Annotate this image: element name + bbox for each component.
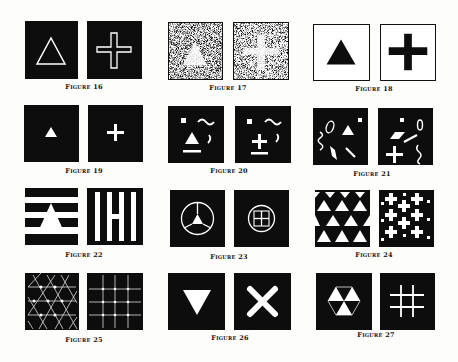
figure-21-left-triangle-scattered bbox=[313, 108, 368, 165]
triangle-tessellation-icon bbox=[315, 190, 370, 247]
triangle-with-distractors-icon bbox=[168, 106, 224, 163]
figure-26-right-diagonal-cross bbox=[234, 273, 291, 330]
figure-21-right-cross-scattered bbox=[378, 108, 433, 165]
figure-22-caption: Figure 22 bbox=[44, 251, 124, 259]
solid-cross-icon bbox=[381, 25, 435, 80]
noise-triangle-icon bbox=[169, 23, 222, 79]
figure-20-right-cross-distractors bbox=[235, 106, 291, 163]
small-cross-icon bbox=[88, 105, 143, 162]
figure-22-left-triangle-stripes bbox=[25, 188, 78, 245]
figure-19-caption: Figure 19 bbox=[44, 167, 124, 175]
figure-18-left-black-triangle bbox=[313, 24, 370, 81]
figure-22-right-cross-stripes bbox=[87, 188, 143, 245]
figure-21-caption: Figure 21 bbox=[332, 170, 412, 178]
cross-scattered-shapes-icon bbox=[378, 108, 433, 165]
figure-24-left-triangle-tessellation bbox=[315, 190, 370, 247]
triangle-scattered-shapes-icon bbox=[313, 108, 368, 165]
figure-19-right-small-cross bbox=[88, 105, 143, 162]
figure-23-left-triangle-circle bbox=[170, 190, 225, 247]
figure-16-right-outline-cross bbox=[87, 21, 142, 79]
hash-grid-icon bbox=[380, 273, 435, 330]
diagonal-cross-icon bbox=[234, 273, 291, 330]
cross-tessellation-icon bbox=[379, 190, 434, 247]
triangle-lattice-icon bbox=[25, 273, 79, 330]
solid-triangle-icon bbox=[314, 25, 369, 80]
hexagon-triangles-icon bbox=[316, 273, 372, 330]
figure-17-caption: Figure 17 bbox=[188, 84, 268, 92]
figure-23-right-cross-circle bbox=[234, 190, 289, 247]
figure-24-right-cross-tessellation bbox=[379, 190, 434, 247]
cross-with-distractors-icon bbox=[235, 106, 291, 163]
figure-18-caption: Figure 18 bbox=[334, 85, 414, 93]
cross-vertical-stripes-icon bbox=[87, 188, 143, 245]
figure-26-left-inverted-triangle bbox=[168, 273, 225, 330]
figure-27-left-hexagon-triangles bbox=[316, 273, 372, 330]
outline-triangle-icon bbox=[25, 21, 78, 79]
figure-20-caption: Figure 20 bbox=[189, 167, 269, 175]
square-grid-lattice-icon bbox=[87, 273, 143, 330]
figure-25-right-square-lattice bbox=[87, 273, 143, 330]
figure-16-caption: Figure 16 bbox=[44, 83, 124, 91]
figure-25-left-triangle-lattice bbox=[25, 273, 79, 330]
figure-18-right-black-cross bbox=[380, 24, 436, 81]
cross-in-circle-icon bbox=[234, 190, 289, 247]
figure-20-left-triangle-distractors bbox=[168, 106, 224, 163]
figure-16-left-outline-triangle bbox=[25, 21, 78, 79]
figure-17-right-noise-cross bbox=[233, 22, 289, 80]
figure-26-caption: Figure 26 bbox=[190, 334, 270, 342]
figure-19-left-small-triangle bbox=[24, 105, 79, 162]
figure-27-caption: Figure 27 bbox=[336, 331, 416, 339]
triangle-in-circle-icon bbox=[170, 190, 225, 247]
figure-24-caption: Figure 24 bbox=[334, 251, 414, 259]
small-triangle-icon bbox=[24, 105, 79, 162]
figure-17-left-noise-triangle bbox=[168, 22, 223, 80]
outline-cross-icon bbox=[87, 21, 142, 79]
inverted-triangle-icon bbox=[168, 273, 225, 330]
noise-cross-icon bbox=[234, 23, 288, 79]
figure-27-right-hash-grid bbox=[380, 273, 435, 330]
figure-25-caption: Figure 25 bbox=[44, 336, 124, 344]
figure-23-caption: Figure 23 bbox=[189, 253, 269, 261]
triangle-horizontal-stripes-icon bbox=[25, 188, 78, 245]
